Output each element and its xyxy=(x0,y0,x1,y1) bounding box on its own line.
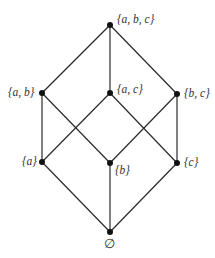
node-c xyxy=(174,160,180,166)
edge-a-empty xyxy=(42,162,110,232)
label-a: {a} xyxy=(22,156,37,168)
label-ab: {a, b} xyxy=(8,87,34,99)
node-a xyxy=(39,159,45,165)
hasse-diagram xyxy=(0,0,215,258)
label-bc: {b, c} xyxy=(184,88,210,100)
node-ab xyxy=(39,90,45,96)
node-b xyxy=(107,160,113,166)
label-b: {b} xyxy=(115,165,130,177)
label-abc: {a, b, c} xyxy=(117,14,154,26)
edge-abc-ab xyxy=(42,25,110,93)
node-bc xyxy=(174,91,180,97)
label-ac: {a, c} xyxy=(117,84,143,96)
node-empty xyxy=(107,229,113,235)
node-abc xyxy=(107,22,113,28)
label-empty-set: ∅ xyxy=(104,237,115,250)
node-ac xyxy=(107,90,113,96)
label-c: {c} xyxy=(184,157,198,169)
